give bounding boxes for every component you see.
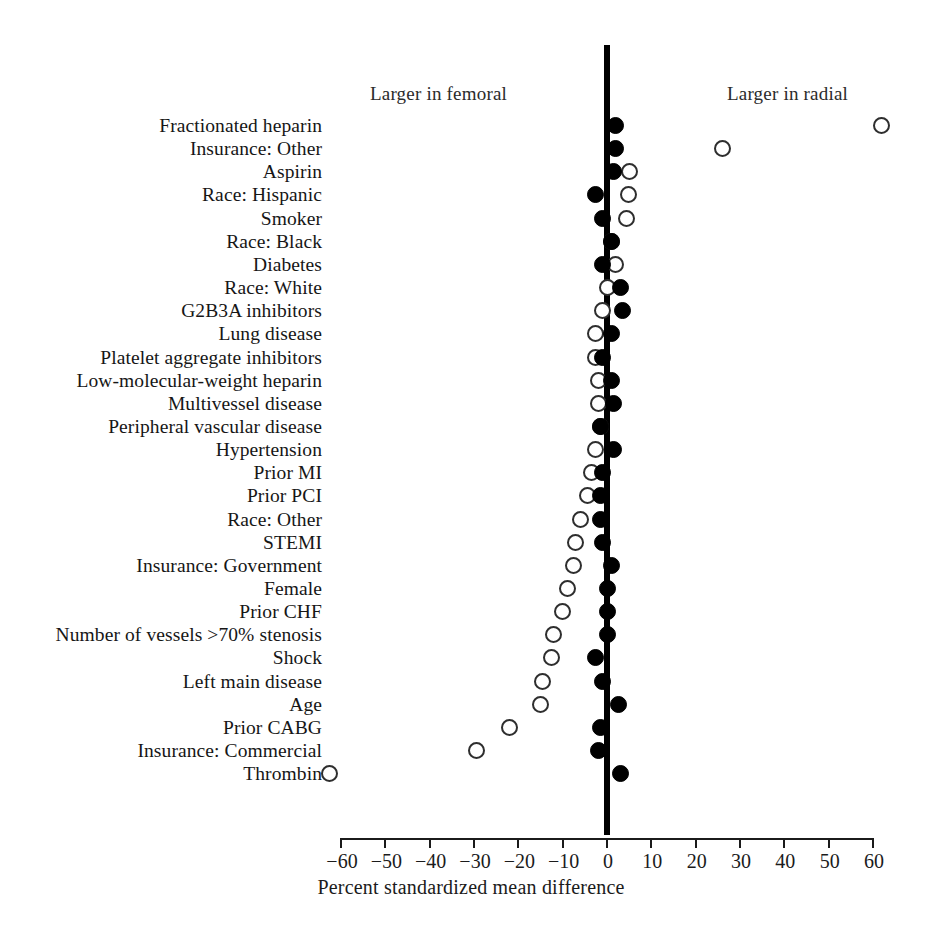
- plot-row: Insurance: Government: [0, 554, 942, 577]
- open-circle-marker: [590, 395, 607, 412]
- plot-row: Race: Hispanic: [0, 183, 942, 206]
- row-label: Race: Black: [226, 230, 322, 253]
- plot-row: Platelet aggregate inhibitors: [0, 346, 942, 369]
- open-circle-marker: [567, 534, 584, 551]
- plot-row: STEMI: [0, 531, 942, 554]
- filled-circle-marker: [587, 649, 604, 666]
- x-tick: [828, 838, 830, 848]
- filled-circle-marker: [603, 325, 620, 342]
- row-label: Prior PCI: [247, 484, 322, 507]
- plot-row: Fractionated heparin: [0, 114, 942, 137]
- plot-row: Shock: [0, 646, 942, 669]
- row-label: Prior CHF: [239, 600, 322, 623]
- x-tick: [562, 838, 564, 848]
- x-tick: [783, 838, 785, 848]
- filled-circle-marker: [603, 233, 620, 250]
- row-label: Platelet aggregate inhibitors: [100, 346, 322, 369]
- open-circle-marker: [587, 325, 604, 342]
- row-label: Race: Hispanic: [202, 183, 322, 206]
- open-circle-marker: [587, 441, 604, 458]
- open-circle-marker: [873, 117, 890, 134]
- open-circle-marker: [554, 603, 571, 620]
- row-label: Prior MI: [253, 461, 322, 484]
- row-label: Insurance: Government: [136, 554, 322, 577]
- filled-circle-marker: [592, 719, 609, 736]
- plot-row: Hypertension: [0, 438, 942, 461]
- filled-circle-marker: [592, 511, 609, 528]
- filled-circle-marker: [599, 626, 616, 643]
- row-label: Number of vessels >70% stenosis: [56, 623, 322, 646]
- filled-circle-marker: [605, 163, 622, 180]
- plot-row: Age: [0, 693, 942, 716]
- filled-circle-marker: [587, 186, 604, 203]
- row-label: Low-molecular-weight heparin: [76, 369, 322, 392]
- x-tick: [872, 838, 874, 848]
- row-label: Diabetes: [253, 253, 322, 276]
- filled-circle-marker: [592, 487, 609, 504]
- row-label: Lung disease: [218, 322, 322, 345]
- open-circle-marker: [565, 557, 582, 574]
- open-circle-marker: [468, 742, 485, 759]
- plot-row: Prior MI: [0, 461, 942, 484]
- x-tick: [739, 838, 741, 848]
- filled-circle-marker: [607, 140, 624, 157]
- row-label: Shock: [273, 646, 322, 669]
- x-axis-title: Percent standardized mean difference: [0, 876, 942, 899]
- plot-row: Race: White: [0, 276, 942, 299]
- filled-circle-marker: [612, 279, 629, 296]
- filled-circle-marker: [594, 534, 611, 551]
- row-label: Peripheral vascular disease: [108, 415, 322, 438]
- filled-circle-marker: [607, 117, 624, 134]
- plot-row: Low-molecular-weight heparin: [0, 369, 942, 392]
- x-tick: [650, 838, 652, 848]
- row-label: Race: Other: [227, 508, 322, 531]
- x-tick: [517, 838, 519, 848]
- x-tick: [384, 838, 386, 848]
- plot-row: Diabetes: [0, 253, 942, 276]
- filled-circle-marker: [594, 256, 611, 273]
- open-circle-marker: [501, 719, 518, 736]
- row-label: STEMI: [263, 531, 322, 554]
- filled-circle-marker: [599, 580, 616, 597]
- filled-circle-marker: [612, 765, 629, 782]
- row-label: Aspirin: [263, 160, 322, 183]
- x-tick: [340, 838, 342, 848]
- filled-circle-marker: [610, 696, 627, 713]
- row-label: Age: [289, 693, 322, 716]
- plot-row: Insurance: Other: [0, 137, 942, 160]
- open-circle-marker: [618, 210, 635, 227]
- row-label: Prior CABG: [223, 716, 322, 739]
- filled-circle-marker: [603, 557, 620, 574]
- row-label: Thrombin: [243, 762, 322, 785]
- x-tick-label: 60: [844, 850, 904, 872]
- open-circle-marker: [545, 626, 562, 643]
- row-label: Female: [264, 577, 322, 600]
- filled-circle-marker: [599, 603, 616, 620]
- open-circle-marker: [620, 186, 637, 203]
- plot-row: Prior CHF: [0, 600, 942, 623]
- plot-row: Race: Other: [0, 508, 942, 531]
- open-circle-marker: [714, 140, 731, 157]
- filled-circle-marker: [592, 418, 609, 435]
- plot-row: Left main disease: [0, 670, 942, 693]
- row-label: Fractionated heparin: [159, 114, 322, 137]
- plot-row: Insurance: Commercial: [0, 739, 942, 762]
- plot-row: G2B3A inhibitors: [0, 299, 942, 322]
- row-label: Multivessel disease: [168, 392, 322, 415]
- annotation-larger-in-radial: Larger in radial: [727, 83, 848, 105]
- plot-row: Lung disease: [0, 322, 942, 345]
- filled-circle-marker: [605, 441, 622, 458]
- x-tick: [429, 838, 431, 848]
- row-label: Hypertension: [216, 438, 322, 461]
- open-circle-marker: [572, 511, 589, 528]
- x-tick: [695, 838, 697, 848]
- plot-row: Smoker: [0, 207, 942, 230]
- row-label: G2B3A inhibitors: [181, 299, 322, 322]
- row-label: Insurance: Commercial: [137, 739, 322, 762]
- plot-row: Peripheral vascular disease: [0, 415, 942, 438]
- plot-row: Race: Black: [0, 230, 942, 253]
- open-circle-marker: [532, 696, 549, 713]
- filled-circle-marker: [594, 349, 611, 366]
- open-circle-marker: [534, 673, 551, 690]
- filled-circle-marker: [594, 464, 611, 481]
